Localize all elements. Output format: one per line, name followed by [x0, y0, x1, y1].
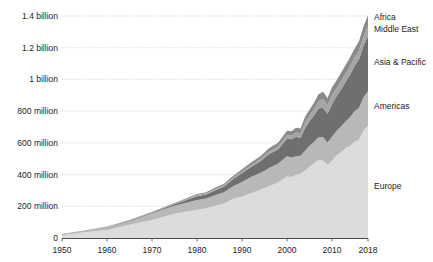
series-label-europe: Europe [374, 181, 401, 192]
series-label-americas: Americas [374, 101, 409, 112]
x-tick-label: 2018 [348, 246, 388, 255]
stacked-areas [62, 15, 368, 238]
x-tick-label: 1950 [42, 246, 82, 255]
x-tick-label: 2010 [312, 246, 352, 255]
chart-root: 1.4 billion 1.2 billion 1 billion 800 mi… [0, 0, 433, 262]
x-tick-label: 1980 [177, 246, 217, 255]
series-label-africa: Africa [374, 12, 396, 23]
x-tick-label: 1970 [132, 246, 172, 255]
plot-area [0, 0, 433, 262]
series-label-middle-east: Middle East [374, 24, 418, 35]
series-label-asia-pacific: Asia & Pacific [374, 57, 426, 68]
x-tick-label: 1990 [222, 246, 262, 255]
x-tick-label: 1960 [87, 246, 127, 255]
x-tick-label: 2000 [267, 246, 307, 255]
